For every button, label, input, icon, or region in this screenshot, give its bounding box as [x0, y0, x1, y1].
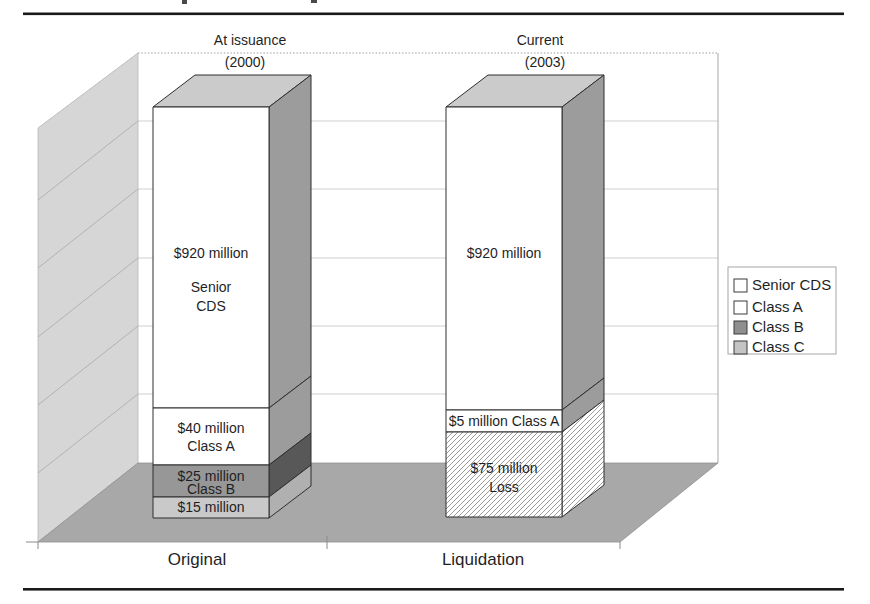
floor [38, 463, 718, 542]
senior-cds-side-face [562, 75, 604, 410]
class-c-value-label: $15 million [178, 499, 245, 515]
loss-name-label: Loss [489, 479, 519, 495]
top-rule [23, 13, 844, 16]
category-original: Original [168, 550, 227, 569]
senior-cds-value-label: $920 million [174, 245, 249, 261]
legend-label-class-c: Class C [752, 338, 805, 355]
book-page: At issuance (2000) Current (2003) $920 m… [0, 0, 870, 604]
bottom-rule [23, 588, 844, 591]
class-a-value-label: $5 million Class A [449, 413, 560, 429]
header-2003: (2003) [525, 54, 565, 70]
legend-label-class-b: Class B [752, 318, 804, 335]
senior-cds-name-label-2: CDS [196, 298, 226, 314]
loss-value-label: $75 million [471, 460, 538, 476]
category-axis-labels: Original Liquidation [168, 550, 524, 569]
class-a-front-face [153, 408, 269, 465]
header-current: Current [517, 32, 564, 48]
class-a-name-label: Class A [187, 438, 235, 454]
legend-swatch-class-a [734, 301, 747, 314]
figure-chart: At issuance (2000) Current (2003) $920 m… [0, 0, 870, 604]
header-at-issuance: At issuance [214, 32, 287, 48]
legend-label-class-a: Class A [752, 298, 803, 315]
cropped-text-fragment [182, 0, 187, 4]
senior-cds-value-label: $920 million [467, 245, 542, 261]
senior-cds-side-face [269, 75, 311, 408]
legend-label-senior-cds: Senior CDS [752, 276, 831, 293]
cropped-text-fragment [311, 0, 317, 3]
legend-swatch-class-b [734, 321, 747, 334]
class-a-value-label: $40 million [178, 420, 245, 436]
legend: Senior CDS Class A Class B Class C [728, 267, 836, 355]
category-liquidation: Liquidation [442, 550, 524, 569]
senior-cds-name-label-1: Senior [191, 279, 232, 295]
class-b-name-label: Class B [187, 481, 235, 497]
header-2000: (2000) [225, 54, 265, 70]
bar-liquidation [446, 75, 604, 517]
legend-swatch-class-c [734, 341, 747, 354]
legend-swatch-senior-cds [734, 279, 747, 292]
